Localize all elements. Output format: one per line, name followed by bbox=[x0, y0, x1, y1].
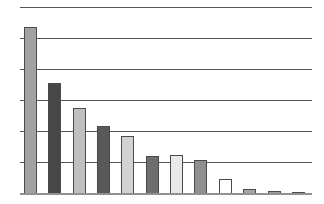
bar-12 bbox=[292, 192, 305, 193]
bar-4 bbox=[97, 126, 110, 193]
bar-1 bbox=[24, 27, 37, 193]
bar-10 bbox=[243, 189, 256, 193]
gridline bbox=[20, 7, 312, 8]
gridline bbox=[20, 162, 312, 163]
bar-2 bbox=[48, 83, 61, 193]
gridline bbox=[20, 69, 312, 70]
bar-9 bbox=[219, 179, 232, 193]
bar-3 bbox=[73, 108, 86, 193]
bar-7 bbox=[170, 155, 183, 193]
bar-chart bbox=[0, 0, 324, 204]
bar-8 bbox=[194, 160, 207, 193]
bar-6 bbox=[146, 156, 159, 193]
plot-area bbox=[20, 7, 312, 195]
gridline bbox=[20, 131, 312, 132]
gridline bbox=[20, 38, 312, 39]
bar-5 bbox=[121, 136, 134, 193]
bar-11 bbox=[268, 191, 281, 193]
gridline bbox=[20, 100, 312, 101]
